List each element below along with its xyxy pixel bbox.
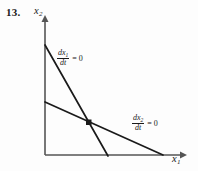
y-axis-label-var: x xyxy=(34,5,39,16)
y-axis-label-subscript: 2 xyxy=(39,10,43,18)
x-axis-label-subscript: 1 xyxy=(177,158,181,166)
nullcline-dx2-numerator: dx2 xyxy=(132,114,144,123)
nullcline-dx2-label: dx2 dt = 0 xyxy=(132,114,158,132)
nullcline-dx1-fraction: dx1 dt xyxy=(57,49,69,67)
nullcline-dx1-equals: = 0 xyxy=(72,54,83,63)
nullcline-dx1-numerator-var: dx xyxy=(58,48,66,57)
x-axis xyxy=(45,151,187,158)
nullcline-dx1-numerator: dx1 xyxy=(57,49,69,58)
nullcline-dx1-denominator: dt xyxy=(59,59,67,68)
nullcline-dx1-numerator-subscript: 1 xyxy=(66,52,69,58)
equilibrium-point-marker xyxy=(86,120,92,126)
x-axis-arrowhead xyxy=(180,151,187,158)
nullcline-dx2-numerator-subscript: 2 xyxy=(141,117,144,123)
y-axis-arrowhead xyxy=(42,15,49,22)
y-axis xyxy=(42,15,49,155)
phase-plane-figure: 13. x2 x1 dx1 dt = 0 dx2 xyxy=(0,0,198,171)
x-axis-label-var: x xyxy=(172,153,177,164)
nullcline-dx2-denominator: dt xyxy=(134,124,142,133)
nullcline-dx1-label: dx1 dt = 0 xyxy=(57,49,83,67)
x-axis-label: x1 xyxy=(172,153,180,164)
nullcline-plot xyxy=(0,0,198,171)
y-axis-label: x2 xyxy=(34,5,42,16)
nullcline-dx2-fraction: dx2 dt xyxy=(132,114,144,132)
nullcline-dx2-numerator-var: dx xyxy=(133,113,141,122)
nullcline-dx2-equals: = 0 xyxy=(147,119,158,128)
